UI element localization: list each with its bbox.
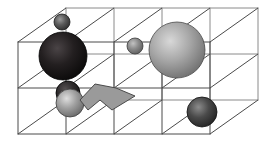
grid-line-d bbox=[210, 100, 258, 134]
sphere-light-front-lower-left bbox=[56, 89, 84, 117]
grid-line-d bbox=[114, 100, 162, 134]
grid-line-d bbox=[210, 54, 258, 88]
scene-container bbox=[0, 0, 266, 141]
sphere-large-light-right bbox=[149, 22, 205, 78]
grid-line-d bbox=[210, 8, 258, 42]
scene-canvas bbox=[0, 0, 266, 141]
sphere-small-middle bbox=[127, 38, 143, 54]
sphere-large-dark-left bbox=[39, 32, 87, 80]
sphere-dark-bottom-right bbox=[187, 97, 217, 127]
sphere-small-top-left bbox=[54, 14, 70, 30]
